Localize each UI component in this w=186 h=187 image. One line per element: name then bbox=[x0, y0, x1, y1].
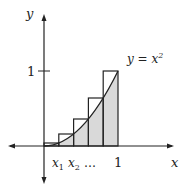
y-axis-label: y bbox=[25, 6, 34, 21]
y-tick-label: 1 bbox=[27, 64, 35, 79]
curve-label: y = x2 bbox=[126, 51, 163, 66]
x-axis-left-arrow-icon bbox=[8, 144, 15, 149]
riemann-sum-diagram: y x 1 1 y = x2 x1 x2 … bbox=[0, 0, 186, 187]
y-axis-up-arrow-icon bbox=[42, 14, 47, 21]
x-tick-label: 1 bbox=[114, 155, 122, 170]
area-under-curve bbox=[44, 71, 118, 146]
partition-ellipsis: … bbox=[84, 156, 96, 170]
x-axis-right-arrow-icon bbox=[167, 144, 174, 149]
y-axis-down-arrow-icon bbox=[42, 177, 47, 184]
y-axis bbox=[42, 14, 47, 184]
partition-label-x2: x2 bbox=[68, 156, 80, 172]
partition-label-x1: x1 bbox=[52, 156, 64, 172]
x-axis-label: x bbox=[171, 155, 179, 170]
